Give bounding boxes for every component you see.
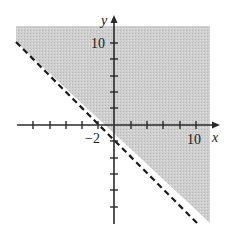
y-axis-label: y	[99, 13, 108, 28]
x-axis-arrow-icon	[212, 122, 220, 129]
y-tick-label-10: 10	[91, 36, 105, 51]
inequality-graph: y 10 −2 10 x	[0, 0, 228, 230]
y-axis-arrow-icon	[111, 15, 118, 23]
x-axis-label: x	[211, 130, 219, 145]
x-tick-label-neg2: −2	[85, 131, 100, 146]
x-tick-label-10: 10	[187, 132, 201, 147]
